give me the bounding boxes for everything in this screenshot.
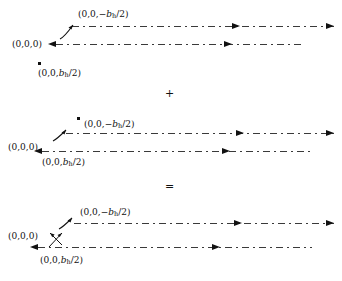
point-marker	[38, 62, 41, 65]
lower-line-label: (0,0,bh/2)	[40, 256, 83, 266]
lower-dipole-line	[42, 151, 312, 152]
equals-operator: =	[165, 181, 174, 192]
origin-label-text: (0,0,0)	[8, 142, 38, 152]
origin-leader-arrow-icon	[58, 20, 80, 42]
origin-label: (0,0,0)	[12, 40, 42, 49]
upper-line-end-arrowhead-icon	[326, 220, 334, 226]
upper-dipole-line	[74, 223, 334, 224]
point-marker	[77, 117, 80, 120]
lower-line-start-arrowhead-icon	[48, 41, 56, 47]
upper-line-label: (0,0,−bh/2)	[80, 208, 130, 218]
crossed-leader-arrows-icon	[46, 230, 66, 250]
origin-leader-arrow-icon	[52, 128, 72, 144]
lower-line-label: (0,0,bh/2)	[42, 158, 85, 168]
upper-line-mid-arrowhead-icon	[236, 130, 244, 136]
origin-label: (0,0,0)	[8, 232, 38, 241]
origin-label-text: (0,0,0)	[12, 39, 42, 49]
lower-dipole-line	[56, 44, 305, 45]
upper-line-end-arrowhead-icon	[326, 130, 334, 136]
plus-operator: +	[165, 88, 174, 99]
upper-line-label: (0,0,−bh/2)	[78, 10, 128, 20]
upper-line-end-arrowhead-icon	[326, 23, 334, 29]
lower-line-label: (0,0,bh/2)	[38, 69, 81, 79]
origin-label: (0,0,0)	[8, 143, 38, 152]
dislocation-dipole-figure: (0,0,0) (0,0,−bh/2) (0,0,bh/2) + (0,0,0)…	[0, 0, 342, 281]
lower-dipole-line	[38, 247, 312, 248]
upper-dipole-line	[66, 133, 334, 134]
upper-line-mid-arrowhead-icon	[232, 23, 240, 29]
upper-dipole-line	[72, 26, 334, 27]
lower-line-start-arrowhead-icon	[30, 244, 38, 250]
lower-line-mid-arrowhead-icon	[222, 148, 230, 154]
origin-label-text: (0,0,0)	[8, 231, 38, 241]
upper-line-mid-arrowhead-icon	[234, 220, 242, 226]
lower-line-mid-arrowhead-icon	[212, 244, 220, 250]
upper-line-label: (0,0,−bh/2)	[84, 120, 134, 130]
lower-line-mid-arrowhead-icon	[224, 41, 232, 47]
